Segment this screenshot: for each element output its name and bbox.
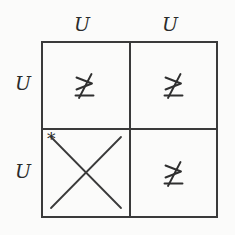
matrix-cell-1-0: * — [41, 129, 129, 216]
matrix-cell-1-1 — [130, 129, 218, 216]
matrix-cell-0-0 — [41, 41, 129, 128]
asterisk-annotation: * — [47, 131, 56, 148]
row-header-0: U — [8, 74, 38, 93]
column-header-1: U — [155, 15, 185, 34]
diagonal-cross-icon — [45, 133, 125, 212]
column-header-0: U — [67, 15, 97, 34]
not-greater-equal-icon — [72, 70, 98, 100]
matrix-cell-0-1 — [130, 41, 218, 128]
row-header-1: U — [8, 162, 38, 181]
figure-canvas: U U U U — [0, 0, 235, 235]
not-greater-equal-icon — [161, 70, 187, 100]
matrix-grid: * — [41, 41, 218, 218]
not-greater-equal-icon — [161, 158, 187, 188]
